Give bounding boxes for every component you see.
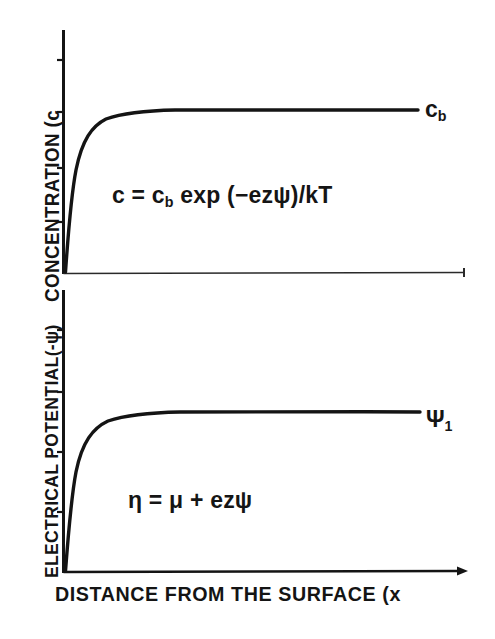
curve-label-psi-subscript: 1	[445, 418, 453, 434]
electrical-potential-panel	[57, 290, 468, 576]
concentration-panel	[57, 30, 464, 277]
equation-concentration: c = cb exp (−ezψ)/kT	[112, 182, 333, 210]
curve-label-psi-base: Ψ	[426, 406, 445, 432]
equation-concentration-rhs: exp (−ezψ)/kT	[174, 182, 333, 208]
curve-label-cb-subscript: b	[438, 108, 447, 124]
x-axis-arrowhead-icon	[457, 567, 468, 576]
equation-electrochemical-potential: η = μ + ezψ	[128, 487, 252, 514]
x-axis-top	[64, 273, 465, 274]
curve-label-cb: cb	[425, 96, 447, 124]
equation-concentration-subscript: b	[165, 194, 174, 210]
plot-canvas	[0, 0, 495, 639]
y-axis-label-concentration: CONCENTRATION (c	[42, 110, 63, 302]
equation-concentration-lhs: c = c	[112, 182, 165, 208]
curve-label-psi: Ψ1	[426, 406, 453, 434]
curve-label-cb-base: c	[425, 96, 438, 122]
y-axis-label-electrical-potential: ELECTRICAL POTENTIAL(-ψ)	[42, 324, 61, 578]
x-axis-label-distance: DISTANCE FROM THE SURFACE (x	[55, 582, 401, 606]
figure-root: CONCENTRATION (c ELECTRICAL POTENTIAL(-ψ…	[0, 0, 495, 639]
x-axis-bottom	[64, 571, 459, 572]
